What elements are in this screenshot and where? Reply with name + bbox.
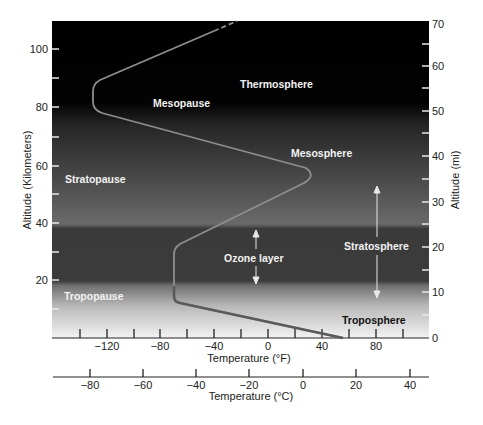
svg-text:−80: −80 — [81, 379, 100, 391]
label-mesosphere: Mesosphere — [291, 147, 352, 159]
svg-text:30: 30 — [432, 196, 444, 208]
celsius-axis-ticks — [90, 369, 410, 377]
svg-text:40: 40 — [432, 150, 444, 162]
svg-text:40: 40 — [316, 340, 328, 352]
svg-text:−60: −60 — [134, 379, 153, 391]
label-stratosphere: Stratosphere — [344, 240, 409, 252]
label-ozone-layer: Ozone layer — [224, 252, 284, 264]
svg-text:20: 20 — [36, 274, 48, 286]
right-axis-title: Altitude (mi) — [449, 151, 461, 210]
label-tropopause: Tropopause — [64, 290, 124, 302]
svg-text:80: 80 — [370, 340, 382, 352]
label-thermosphere: Thermosphere — [240, 78, 313, 90]
svg-text:40: 40 — [404, 379, 416, 391]
svg-text:60: 60 — [36, 160, 48, 172]
svg-text:100: 100 — [30, 43, 48, 55]
svg-text:20: 20 — [432, 241, 444, 253]
fahrenheit-axis-title: Temperature (°F) — [207, 352, 290, 364]
svg-text:0: 0 — [265, 340, 271, 352]
right-axis-tick-labels: 0 10 20 30 40 50 60 70 — [432, 18, 444, 344]
svg-text:40: 40 — [36, 217, 48, 229]
svg-text:0: 0 — [300, 379, 306, 391]
svg-text:60: 60 — [432, 60, 444, 72]
celsius-axis-title: Temperature (°C) — [209, 390, 293, 402]
svg-text:−80: −80 — [151, 340, 170, 352]
label-stratopause: Stratopause — [65, 173, 126, 185]
label-mesopause: Mesopause — [153, 97, 210, 109]
svg-text:−40: −40 — [187, 379, 206, 391]
atmosphere-temperature-chart: 20 40 60 80 100 Altitude (Kilometers) 0 … — [0, 0, 483, 425]
svg-text:80: 80 — [36, 101, 48, 113]
left-axis-title: Altitude (Kilometers) — [21, 130, 33, 229]
svg-text:−40: −40 — [205, 340, 224, 352]
svg-text:70: 70 — [432, 18, 444, 30]
label-troposphere: Troposphere — [342, 314, 406, 326]
svg-text:0: 0 — [432, 332, 438, 344]
svg-text:50: 50 — [432, 105, 444, 117]
fahrenheit-axis-tick-labels: −120 −80 −40 0 40 80 — [95, 340, 383, 352]
svg-text:10: 10 — [432, 286, 444, 298]
svg-text:20: 20 — [350, 379, 362, 391]
svg-text:−120: −120 — [95, 340, 120, 352]
